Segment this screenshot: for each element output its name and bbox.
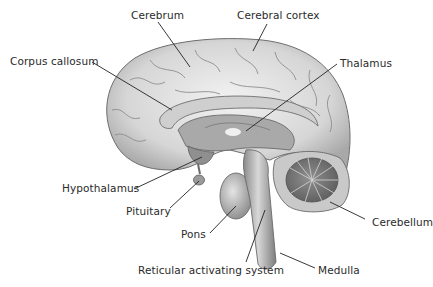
label-pons: Pons — [181, 228, 206, 240]
leader-pituitary — [170, 181, 199, 208]
label-thalamus: Thalamus — [340, 57, 392, 69]
pituitary-shape — [194, 164, 205, 185]
label-hypothalamus: Hypothalamus — [62, 182, 139, 194]
label-cerebrum: Cerebrum — [131, 9, 184, 21]
brain-illustration — [0, 0, 433, 287]
label-cerebellum: Cerebellum — [372, 216, 433, 228]
cerebellum-shape — [273, 151, 349, 211]
leader-cerebellum — [330, 202, 365, 219]
label-pituitary: Pituitary — [126, 205, 171, 217]
label-cerebral-cortex: Cerebral cortex — [237, 9, 320, 21]
label-medulla: Medulla — [318, 264, 360, 276]
brain-diagram: Cerebrum Cerebral cortex Corpus callosum… — [0, 0, 433, 287]
label-corpus-callosum: Corpus callosum — [10, 55, 99, 67]
label-reticular-activating-system: Reticular activating system — [138, 264, 284, 276]
leader-medulla — [280, 253, 315, 268]
